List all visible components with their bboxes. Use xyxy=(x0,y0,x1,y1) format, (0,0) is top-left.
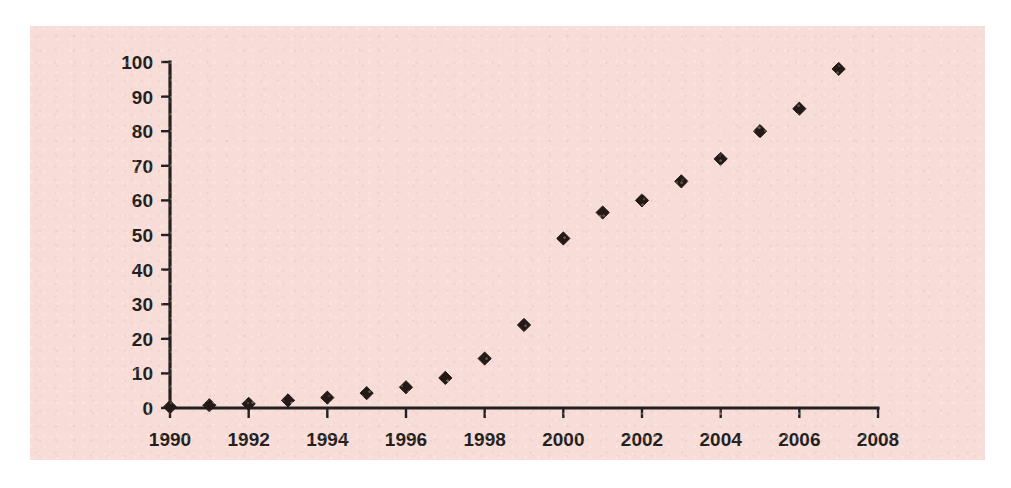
data-point-marker xyxy=(596,206,609,219)
data-point-markers xyxy=(163,62,845,413)
y-tick-label: 60 xyxy=(132,190,153,211)
y-tick-label: 100 xyxy=(121,52,153,73)
x-tick-label: 2004 xyxy=(700,429,743,450)
y-tick-label: 40 xyxy=(132,260,153,281)
chart-page: 0102030405060708090100 19901992199419961… xyxy=(0,0,1011,488)
x-tick-label: 2002 xyxy=(621,429,663,450)
data-point-marker xyxy=(360,387,373,400)
y-tick-label: 10 xyxy=(132,363,153,384)
x-tick-label: 2008 xyxy=(857,429,899,450)
data-point-marker xyxy=(281,394,294,407)
data-point-marker xyxy=(163,400,176,413)
x-tick-label: 1990 xyxy=(149,429,191,450)
x-tick-label: 1996 xyxy=(385,429,427,450)
data-point-marker xyxy=(832,62,845,75)
x-tick-label: 1998 xyxy=(464,429,506,450)
x-axis-tick-labels: 1990199219941996199820002002200420062008 xyxy=(149,429,899,450)
y-tick-label: 80 xyxy=(132,121,153,142)
x-tick-label: 2006 xyxy=(778,429,820,450)
y-axis-tick-labels: 0102030405060708090100 xyxy=(121,52,153,419)
y-tick-label: 20 xyxy=(132,329,153,350)
y-tick-label: 70 xyxy=(132,156,153,177)
data-point-marker xyxy=(635,194,648,207)
y-tick-label: 90 xyxy=(132,87,153,108)
data-point-marker xyxy=(714,152,727,165)
chart-panel: 0102030405060708090100 19901992199419961… xyxy=(30,26,985,460)
data-point-marker xyxy=(321,391,334,404)
x-tick-label: 1992 xyxy=(228,429,270,450)
y-tick-label: 0 xyxy=(142,398,153,419)
data-point-marker xyxy=(753,125,766,138)
data-point-marker xyxy=(557,232,570,245)
x-tick-label: 1994 xyxy=(306,429,349,450)
data-point-marker xyxy=(517,318,530,331)
data-point-marker xyxy=(439,371,452,384)
y-tick-label: 30 xyxy=(132,294,153,315)
data-point-marker xyxy=(675,175,688,188)
y-tick-label: 50 xyxy=(132,225,153,246)
data-point-marker xyxy=(399,381,412,394)
data-point-marker xyxy=(203,399,216,412)
scatter-plot: 0102030405060708090100 19901992199419961… xyxy=(30,26,985,460)
data-point-marker xyxy=(793,102,806,115)
x-tick-label: 2000 xyxy=(542,429,584,450)
data-point-marker xyxy=(478,352,491,365)
